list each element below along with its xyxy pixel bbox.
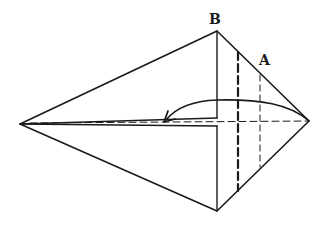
label-a: A xyxy=(259,53,270,67)
inner-flap-lower xyxy=(20,124,217,126)
origami-diagram: B A xyxy=(0,0,326,231)
inner-flap-upper xyxy=(20,118,217,124)
diagram-drawing xyxy=(0,0,326,231)
label-b: B xyxy=(209,12,221,26)
